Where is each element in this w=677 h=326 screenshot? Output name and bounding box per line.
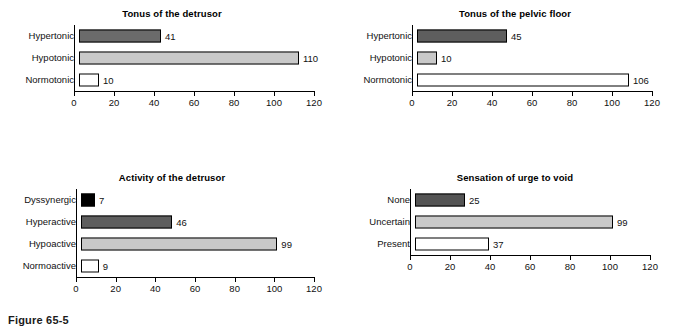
bar-track: 10: [417, 47, 657, 69]
x-tick-label: 100: [604, 97, 620, 108]
x-tick-label: 20: [447, 97, 458, 108]
bar: [417, 30, 507, 43]
plot-area: Hypertonic41Hypotonic110Normotonic100204…: [8, 23, 338, 115]
bar-row: Hypoactive99: [8, 233, 319, 255]
bar-rows: Dyssynergic7Hyperactive46Hypoactive99Nor…: [8, 189, 319, 277]
x-tick-label: 20: [109, 97, 120, 108]
bar-value-label: 41: [165, 31, 176, 42]
bar-row: Normotonic106: [350, 69, 657, 91]
chart-panel-activity-detrusor: Activity of the detrusor Dyssynergic7Hyp…: [8, 172, 338, 297]
bar-value-label: 110: [303, 53, 318, 64]
x-tick-label: 80: [567, 97, 578, 108]
bar-rows: None25Uncertain99Present37: [350, 189, 655, 255]
bar-value-label: 10: [441, 53, 452, 64]
x-tick-label: 100: [602, 261, 618, 272]
bar-row: Hyperactive46: [8, 211, 319, 233]
x-axis-ticks: 020406080100120: [410, 256, 651, 261]
y-axis-line: [410, 189, 411, 255]
x-tick-label: 0: [409, 97, 414, 108]
x-tick: [612, 92, 613, 96]
x-tick-label: 80: [229, 97, 240, 108]
category-label: Dyssynergic: [8, 195, 81, 205]
chart-title: Sensation of urge to void: [370, 172, 660, 183]
category-label: Hypertonic: [8, 31, 79, 41]
x-tick: [195, 278, 196, 282]
x-tick-label: 60: [527, 97, 538, 108]
x-tick: [572, 92, 573, 96]
x-tick: [650, 256, 651, 260]
bar-track: 99: [81, 233, 319, 255]
category-label: Uncertain: [350, 217, 415, 227]
x-tick: [452, 92, 453, 96]
x-tick: [76, 278, 77, 282]
x-tick: [570, 256, 571, 260]
x-tick: [194, 92, 195, 96]
x-tick: [274, 92, 275, 96]
category-label: Hypotonic: [350, 53, 417, 63]
bar: [79, 52, 299, 65]
x-tick: [412, 92, 413, 96]
x-tick-label: 120: [306, 283, 322, 294]
category-label: None: [350, 195, 415, 205]
x-tick: [492, 92, 493, 96]
bar: [417, 74, 629, 87]
bar-track: 45: [417, 25, 657, 47]
bar-value-label: 25: [469, 195, 480, 206]
x-tick-label: 20: [445, 261, 456, 272]
bar: [81, 216, 172, 229]
bar-track: 46: [81, 211, 319, 233]
plot-area: None25Uncertain99Present3702040608010012…: [350, 187, 670, 279]
bar-row: Hypotonic10: [350, 47, 657, 69]
x-tick-label: 0: [407, 261, 412, 272]
bar-track: 106: [417, 69, 657, 91]
x-tick: [490, 256, 491, 260]
bar-value-label: 46: [176, 217, 187, 228]
x-axis-ticks: 020406080100120: [412, 92, 653, 97]
bar: [79, 74, 99, 87]
bar-row: Hypertonic41: [8, 25, 319, 47]
x-tick-label: 80: [229, 283, 240, 294]
category-label: Normotonic: [350, 75, 417, 85]
bar-value-label: 99: [281, 239, 292, 250]
bar-track: 37: [415, 233, 655, 255]
x-tick: [155, 278, 156, 282]
x-tick-label: 0: [73, 283, 78, 294]
x-tick: [314, 278, 315, 282]
x-tick: [274, 278, 275, 282]
bar-track: 7: [81, 189, 319, 211]
x-tick: [114, 92, 115, 96]
x-tick: [116, 278, 117, 282]
bar: [81, 238, 277, 251]
x-tick: [450, 256, 451, 260]
bar-track: 10: [79, 69, 319, 91]
bar-value-label: 37: [493, 239, 504, 250]
plot-area: Dyssynergic7Hyperactive46Hypoactive99Nor…: [8, 187, 338, 297]
x-tick: [530, 256, 531, 260]
x-tick-label: 40: [487, 97, 498, 108]
bar-row: Hypertonic45: [350, 25, 657, 47]
bar-value-label: 106: [633, 75, 649, 86]
y-axis-line: [76, 189, 77, 277]
x-tick: [235, 278, 236, 282]
chart-panel-sensation-urge: Sensation of urge to void None25Uncertai…: [350, 172, 670, 279]
x-tick-label: 0: [71, 97, 76, 108]
x-tick-label: 60: [190, 283, 201, 294]
chart-panel-tonus-detrusor: Tonus of the detrusor Hypertonic41Hypoto…: [8, 8, 338, 115]
bar-track: 9: [81, 255, 319, 277]
x-tick-label: 60: [189, 97, 200, 108]
bar: [417, 52, 437, 65]
x-tick-label: 120: [644, 97, 660, 108]
x-tick-label: 120: [306, 97, 322, 108]
x-tick: [532, 92, 533, 96]
x-tick-label: 120: [642, 261, 658, 272]
x-tick: [610, 256, 611, 260]
bar-row: Normoactive9: [8, 255, 319, 277]
bar-track: 41: [79, 25, 319, 47]
x-tick-label: 20: [110, 283, 121, 294]
bar-value-label: 45: [511, 31, 522, 42]
bar-track: 25: [415, 189, 655, 211]
bar-value-label: 99: [617, 217, 628, 228]
bar-rows: Hypertonic41Hypotonic110Normotonic10: [8, 25, 319, 91]
category-label: Hyperactive: [8, 217, 81, 227]
figure-caption: Figure 65-5: [8, 314, 69, 326]
